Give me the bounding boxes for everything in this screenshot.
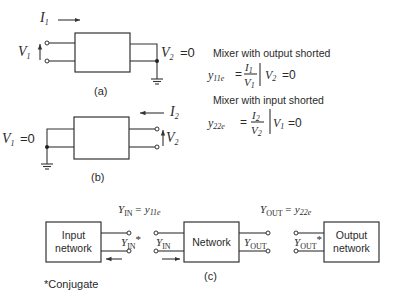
junction-dot-b <box>45 145 49 149</box>
panel-a: I1 V1 V2 =0 (a) <box>18 10 195 97</box>
v2-zero: =0 <box>180 45 195 60</box>
terminal <box>266 231 270 235</box>
input-network-label-1: Input <box>62 229 85 241</box>
terminal <box>154 231 158 235</box>
panel-b: I2 V1 =0 V2 (b) <box>2 104 179 183</box>
yin-label: YIN <box>156 236 171 251</box>
eq2-equals: = <box>240 115 247 129</box>
terminal <box>294 231 298 235</box>
terminal <box>294 249 298 253</box>
eq2-denominator: V2 <box>251 124 262 138</box>
yin-equation: YIN= y11e <box>118 203 161 218</box>
eq1-numerator: I1 <box>244 61 253 75</box>
terminal <box>154 249 158 253</box>
eq1-equals: = <box>235 67 242 81</box>
ground-icon <box>41 164 53 169</box>
mixer-admittance-diagram: I1 V1 V2 =0 (a) Mixer with output shorte… <box>0 0 393 305</box>
eq1-condition: V2 <box>265 68 276 83</box>
yout-equation: YOUT= y22e <box>260 203 312 218</box>
v1-label: V1 <box>18 44 31 61</box>
eq2-numerator: I2 <box>251 109 260 123</box>
yout-label: YOUT <box>244 236 267 251</box>
input-terminal-top <box>45 41 49 45</box>
output-network-label-2: network <box>333 242 371 254</box>
ground-icon <box>151 79 163 84</box>
caption-a: (a) <box>94 85 107 97</box>
panel-c: YIN= y11e YOUT= y22e Input network YIN* … <box>46 203 379 282</box>
eq1-heading: Mixer with output shorted <box>213 47 330 59</box>
eq2-condition-value: =0 <box>288 116 302 130</box>
eq2-condition: V1 <box>273 116 284 131</box>
junction-dot <box>155 59 159 63</box>
caption-b: (b) <box>91 171 104 183</box>
terminal <box>127 231 131 235</box>
eq2-lhs: y22e <box>207 116 225 131</box>
eq1-lhs: y11e <box>207 68 225 83</box>
output-terminal-top <box>155 127 159 131</box>
mixer-box-b <box>74 117 129 159</box>
input-terminal-bottom <box>45 59 49 63</box>
v2-label: V2 <box>161 45 174 62</box>
v1-zero: =0 <box>20 131 35 146</box>
v2-label-b: V2 <box>166 130 179 147</box>
v1-label-b: V1 <box>2 131 15 148</box>
i1-label: I1 <box>39 10 49 27</box>
i2-label: I2 <box>169 104 179 121</box>
eq1-denominator: V1 <box>244 76 255 90</box>
terminal <box>266 249 270 253</box>
yout-conj-label: YOUT* <box>294 233 322 251</box>
yin-conj-label: YIN* <box>121 233 141 251</box>
eq2-heading: Mixer with input shorted <box>213 94 324 106</box>
input-network-label-2: network <box>55 242 93 254</box>
network-label: Network <box>192 236 231 248</box>
eq1-condition-value: =0 <box>282 68 296 82</box>
equations: Mixer with output shorted y11e = I1 V1 V… <box>207 47 330 138</box>
output-terminal-bottom <box>155 145 159 149</box>
caption-c: (c) <box>204 270 217 282</box>
mixer-box-a <box>75 33 130 72</box>
output-network-label-1: Output <box>336 229 368 241</box>
footnote-conjugate: *Conjugate <box>44 278 98 290</box>
